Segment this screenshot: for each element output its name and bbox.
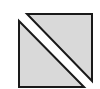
split-square-icon (0, 0, 100, 89)
